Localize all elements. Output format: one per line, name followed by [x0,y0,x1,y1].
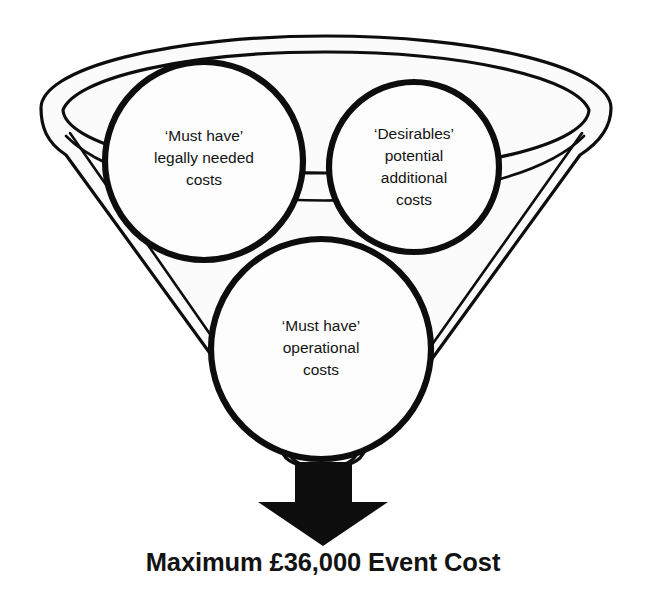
bubble-desirables-line-0: ‘Desirables’ [374,125,454,142]
funnel-diagram-svg: ‘Must have’ legally needed costs ‘Desira… [0,0,646,598]
bubble-desirables-line-2: additional [381,169,447,186]
bubble-desirables-circle [329,82,499,252]
bubble-desirables-line-1: potential [385,147,444,164]
bubble-must-have-operational-line-2: costs [303,361,339,378]
bubble-desirables[interactable]: ‘Desirables’ potential additional costs [329,82,499,252]
output-arrow-group [258,462,388,546]
down-arrow-icon [258,462,388,546]
bubble-must-have-operational[interactable]: ‘Must have’ operational costs [211,239,431,459]
funnel-output-caption: Maximum £36,000 Event Cost [0,548,646,577]
bubble-must-have-operational-line-0: ‘Must have’ [282,317,360,334]
bubble-must-have-legal-line-2: costs [186,171,222,188]
bubble-must-have-legal-line-1: legally needed [154,149,254,166]
funnel-diagram: ‘Must have’ legally needed costs ‘Desira… [0,0,646,598]
bubble-must-have-legal-line-0: ‘Must have’ [165,127,243,144]
bubble-must-have-legal[interactable]: ‘Must have’ legally needed costs [105,62,303,260]
bubble-must-have-operational-line-1: operational [283,339,360,356]
bubble-desirables-line-3: costs [396,191,432,208]
